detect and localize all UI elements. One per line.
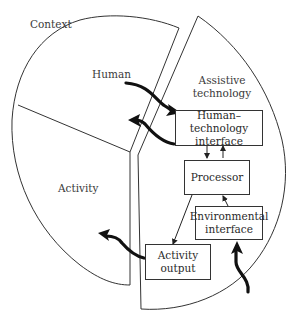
- hti-label-line1: Human–technology: [176, 109, 262, 135]
- environment-to-env-interface-thick-arrow: [236, 250, 248, 292]
- human-technology-interface-box: Human–technology interface: [175, 110, 263, 146]
- hti-label-line2: interface: [176, 135, 262, 148]
- activity-output-label-line2: output: [158, 262, 198, 275]
- processor-label: Processor: [191, 171, 244, 184]
- environmental-interface-box: Environmental interface: [195, 206, 263, 240]
- activity-label: Activity: [58, 182, 98, 195]
- assistive-technology-label-line2: technology: [193, 87, 252, 99]
- env-label-line2: interface: [190, 223, 269, 236]
- env-label-line1: Environmental: [190, 210, 269, 223]
- hatf-diagram: Context Human Activity Assistive technol…: [0, 0, 290, 322]
- assistive-technology-label-line1: Assistive: [199, 74, 246, 86]
- processor-box: Processor: [184, 160, 250, 195]
- env-to-processor-arrow: [223, 196, 228, 206]
- activity-output-to-activity-thick-arrow: [106, 236, 144, 258]
- human-activity-divider: [18, 105, 130, 152]
- activity-output-box: Activity output: [145, 244, 211, 280]
- assistive-technology-label: Assistive technology: [192, 74, 252, 100]
- activity-output-label-line1: Activity: [158, 249, 198, 262]
- human-label: Human: [92, 68, 131, 81]
- context-label: Context: [30, 18, 72, 31]
